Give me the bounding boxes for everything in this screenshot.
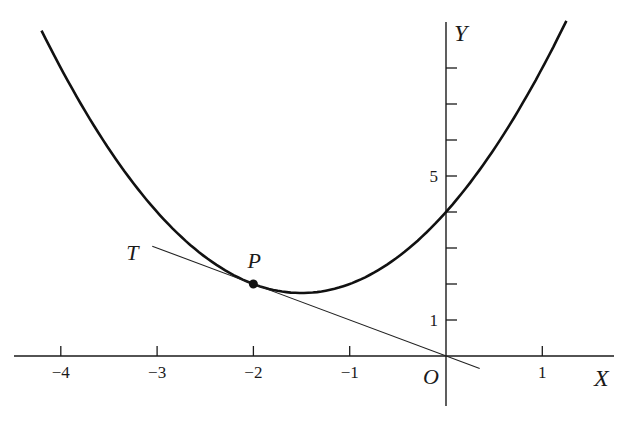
x-axis-label: X bbox=[593, 365, 610, 391]
x-tick-label: −3 bbox=[148, 363, 166, 382]
x-ticks: −4−3−2−11 bbox=[52, 346, 547, 382]
y-tick-label: 5 bbox=[430, 167, 439, 186]
parabola-tangent-figure: −4−3−2−11 15 P T X Y O bbox=[0, 0, 624, 426]
y-ticks: 15 bbox=[430, 68, 458, 330]
x-tick-label: −1 bbox=[341, 363, 359, 382]
point-p-label: P bbox=[246, 248, 260, 273]
y-axis-label: Y bbox=[454, 20, 470, 46]
x-tick-label: −4 bbox=[52, 363, 71, 382]
point-p-marker bbox=[249, 280, 258, 289]
y-tick-label: 1 bbox=[430, 311, 439, 330]
point-t-label: T bbox=[126, 240, 140, 265]
x-tick-label: 1 bbox=[538, 363, 547, 382]
x-tick-label: −2 bbox=[244, 363, 262, 382]
tangent-line bbox=[152, 246, 479, 368]
origin-label: O bbox=[423, 364, 439, 389]
parabola-curve bbox=[42, 21, 567, 293]
